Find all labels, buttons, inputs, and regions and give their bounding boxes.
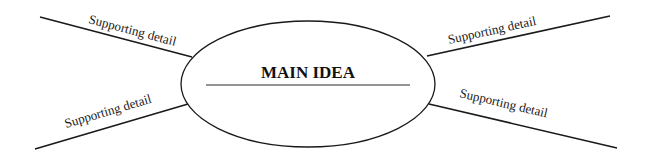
main-idea-diagram: MAIN IDEA Supporting detail Supporting d… <box>0 0 646 166</box>
supporting-detail-bottom-right: Supporting detail <box>458 85 549 120</box>
supporting-detail-bottom-left: Supporting detail <box>63 91 154 131</box>
main-idea-ellipse <box>181 21 435 147</box>
supporting-detail-top-left: Supporting detail <box>87 11 178 49</box>
main-idea-label: MAIN IDEA <box>261 63 356 82</box>
